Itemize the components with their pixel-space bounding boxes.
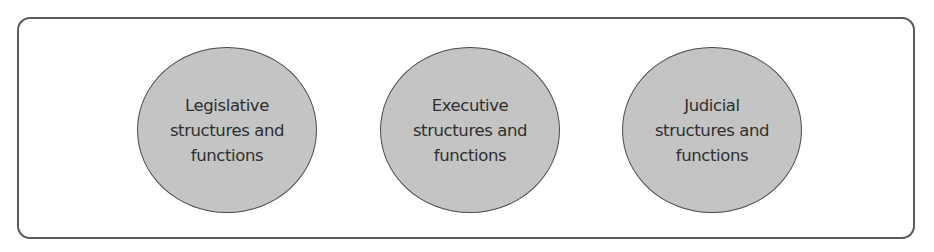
executive-node: Executive structures and functions [380,47,560,213]
judicial-label: Judicial structures and functions [655,93,769,168]
executive-label: Executive structures and functions [413,93,527,168]
legislative-label: Legislative structures and functions [170,93,284,168]
judicial-node: Judicial structures and functions [622,47,802,213]
legislative-node: Legislative structures and functions [137,47,317,213]
